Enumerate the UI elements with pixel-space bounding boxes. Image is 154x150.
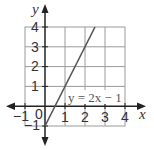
x-tick-3: 3 — [101, 109, 109, 125]
y-tick-2: 2 — [31, 58, 39, 74]
y-axis-arrow-down — [42, 137, 49, 146]
y-tick-1: 1 — [31, 78, 39, 94]
x-tick-2: 2 — [81, 109, 89, 125]
y-tick-4: 4 — [31, 19, 39, 35]
origin-label: 0 — [35, 106, 43, 122]
x-tick-minus1: −1 — [13, 108, 29, 124]
equation-label: y = 2x − 1 — [68, 90, 122, 105]
y-axis-arrow-up — [42, 4, 49, 13]
graph: y = 2x − 1 y x 4 3 2 1 −1 −1 0 1 2 3 4 — [0, 0, 154, 150]
x-tick-1: 1 — [61, 109, 69, 125]
y-axis-label: y — [30, 1, 39, 17]
y-tick-3: 3 — [31, 39, 39, 55]
x-axis-label: x — [138, 106, 146, 122]
x-tick-4: 4 — [121, 109, 129, 125]
